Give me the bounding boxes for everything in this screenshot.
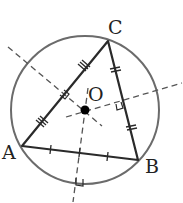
right-angle-mark-bc xyxy=(116,102,123,110)
label-b: B xyxy=(145,155,159,177)
triangle-abc xyxy=(22,41,138,160)
label-o: O xyxy=(88,83,104,105)
label-c: C xyxy=(108,16,123,38)
label-a: A xyxy=(1,141,16,163)
circumcenter-diagram: A B C O xyxy=(0,0,183,203)
circumcenter-point-o xyxy=(81,106,90,115)
